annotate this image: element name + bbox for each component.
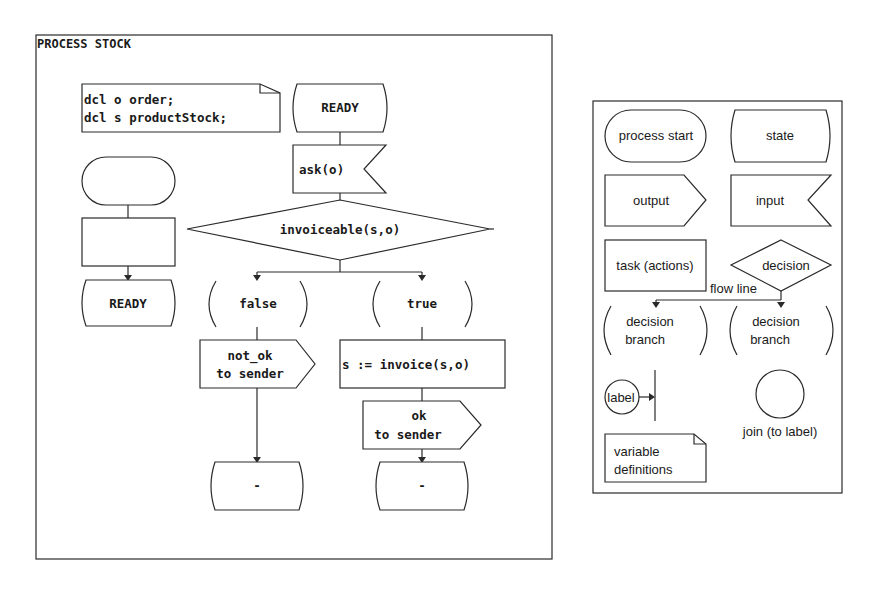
legend-state-label: state xyxy=(766,128,794,143)
join-circle xyxy=(756,370,804,418)
legend-process-start: process start xyxy=(605,110,706,162)
branch-true-label: true xyxy=(407,296,438,311)
task-invoice-label: s := invoice(s,o) xyxy=(342,357,470,372)
output-not-ok-line-2: to sender xyxy=(216,366,284,381)
legend-variables-line-2: definitions xyxy=(614,462,673,477)
output-ok[interactable]: ok to sender xyxy=(363,401,481,449)
declaration-line-1: dcl o order; xyxy=(84,92,174,107)
process-title: PROCESS STOCK xyxy=(37,37,132,51)
state-false-next-label: - xyxy=(253,478,261,493)
state-true-next[interactable]: - xyxy=(376,462,468,510)
decision-label: invoiceable(s,o) xyxy=(280,222,400,237)
sdl-diagram-canvas: PROCESS STOCK dcl o order; dcl s product… xyxy=(0,0,879,591)
legend-variable-definitions: variable definitions xyxy=(605,434,706,482)
state-ready-label: READY xyxy=(321,100,359,115)
legend-input-label: input xyxy=(756,193,785,208)
legend-branch-2-line-1: decision xyxy=(752,314,800,329)
legend-output-label: output xyxy=(633,193,670,208)
mini-example: READY xyxy=(82,157,175,326)
legend-task-label: task (actions) xyxy=(616,258,693,273)
output-not-ok-line-1: not_ok xyxy=(227,348,273,364)
task-invoice[interactable]: s := invoice(s,o) xyxy=(340,340,505,388)
output-ok-line-1: ok xyxy=(411,408,427,423)
input-label: ask(o) xyxy=(299,162,344,177)
legend-panel: process start state output input task (a… xyxy=(593,101,842,493)
legend-branch-1-line-2: branch xyxy=(625,332,665,347)
legend-process-start-label: process start xyxy=(619,128,694,143)
state-true-next-label: - xyxy=(418,478,426,493)
state-false-next[interactable]: - xyxy=(211,462,303,510)
declaration-line-2: dcl s productStock; xyxy=(84,110,227,125)
legend-decision-label: decision xyxy=(762,258,810,273)
branch-false-label: false xyxy=(239,296,277,311)
legend-join-label: join (to label) xyxy=(742,424,817,439)
legend-flow-line-label: flow line xyxy=(710,281,757,296)
mini-task[interactable] xyxy=(82,218,175,266)
legend-label-text: label xyxy=(607,390,635,405)
declarations-note[interactable]: dcl o order; dcl s productStock; xyxy=(82,84,280,132)
mini-process-start[interactable] xyxy=(82,157,175,205)
legend-state: state xyxy=(731,110,830,162)
state-ready[interactable]: READY xyxy=(293,84,387,132)
legend-task: task (actions) xyxy=(605,240,706,291)
legend-branch-2-line-2: branch xyxy=(750,332,790,347)
legend-branch-1-line-1: decision xyxy=(626,314,674,329)
legend-variables-line-1: variable xyxy=(614,444,660,459)
output-ok-line-2: to sender xyxy=(374,427,442,442)
legend-output: output xyxy=(605,175,706,226)
mini-state-label: READY xyxy=(109,296,147,311)
output-not-ok[interactable]: not_ok to sender xyxy=(200,340,315,388)
